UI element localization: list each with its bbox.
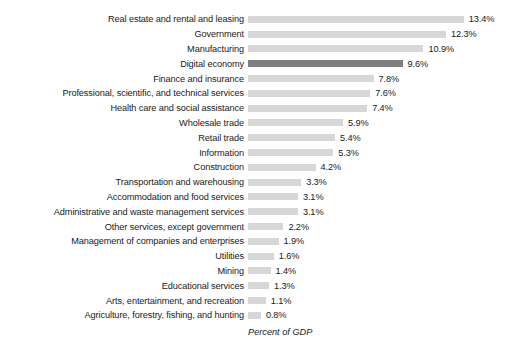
value-label: 5.4% bbox=[335, 133, 361, 143]
bar-area: 9.6% bbox=[248, 56, 517, 71]
value-label: 5.3% bbox=[333, 148, 359, 158]
bar bbox=[248, 134, 335, 141]
chart-row: Information5.3% bbox=[0, 145, 517, 160]
value-label: 12.3% bbox=[446, 29, 477, 39]
category-label: Mining bbox=[0, 266, 248, 276]
bar bbox=[248, 149, 333, 156]
chart-row: Other services, except government2.2% bbox=[0, 219, 517, 234]
category-label: Utilities bbox=[0, 251, 248, 261]
category-label: Finance and insurance bbox=[0, 74, 248, 84]
category-label: Government bbox=[0, 29, 248, 39]
value-label: 7.6% bbox=[370, 88, 396, 98]
value-label: 10.9% bbox=[423, 44, 454, 54]
bar-area: 3.1% bbox=[248, 204, 517, 219]
bar-area: 3.3% bbox=[248, 175, 517, 190]
bar bbox=[248, 312, 261, 319]
bar bbox=[248, 105, 367, 112]
bar bbox=[248, 238, 279, 245]
chart-row: Construction4.2% bbox=[0, 160, 517, 175]
bar-area: 5.4% bbox=[248, 130, 517, 145]
bar bbox=[248, 223, 283, 230]
chart-row: Accommodation and food services3.1% bbox=[0, 190, 517, 205]
bar bbox=[248, 297, 266, 304]
bar-area: 2.2% bbox=[248, 219, 517, 234]
category-label: Educational services bbox=[0, 281, 248, 291]
chart-row: Health care and social assistance7.4% bbox=[0, 101, 517, 116]
bar bbox=[248, 208, 298, 215]
value-label: 7.4% bbox=[367, 103, 393, 113]
bar bbox=[248, 119, 343, 126]
chart-row: Finance and insurance7.8% bbox=[0, 71, 517, 86]
category-label: Accommodation and food services bbox=[0, 192, 248, 202]
bar bbox=[248, 75, 374, 82]
value-label: 1.3% bbox=[269, 281, 295, 291]
category-label: Real estate and rental and leasing bbox=[0, 14, 248, 24]
chart-row: Arts, entertainment, and recreation1.1% bbox=[0, 293, 517, 308]
bar bbox=[248, 16, 464, 23]
bar-area: 7.6% bbox=[248, 86, 517, 101]
chart-row: Manufacturing10.9% bbox=[0, 42, 517, 57]
bar bbox=[248, 90, 370, 97]
chart-row: Government12.3% bbox=[0, 27, 517, 42]
value-label: 3.1% bbox=[298, 192, 324, 202]
category-label: Manufacturing bbox=[0, 44, 248, 54]
x-axis-label: Percent of GDP bbox=[248, 327, 312, 337]
value-label: 1.4% bbox=[271, 266, 297, 276]
bar bbox=[248, 267, 271, 274]
category-label: Management of companies and enterprises bbox=[0, 236, 248, 246]
chart-row: Retail trade5.4% bbox=[0, 130, 517, 145]
chart-row: Agriculture, forestry, fishing, and hunt… bbox=[0, 308, 517, 323]
bar-area: 0.8% bbox=[248, 308, 517, 323]
category-label: Administrative and waste management serv… bbox=[0, 207, 248, 217]
bar-area: 1.3% bbox=[248, 278, 517, 293]
category-label: Digital economy bbox=[0, 59, 248, 69]
chart-row: Real estate and rental and leasing13.4% bbox=[0, 12, 517, 27]
chart-row: Administrative and waste management serv… bbox=[0, 204, 517, 219]
bar-area: 7.8% bbox=[248, 71, 517, 86]
category-label: Transportation and warehousing bbox=[0, 177, 248, 187]
bar-area: 13.4% bbox=[248, 12, 517, 27]
category-label: Agriculture, forestry, fishing, and hunt… bbox=[0, 310, 248, 320]
category-label: Other services, except government bbox=[0, 222, 248, 232]
value-label: 1.9% bbox=[279, 236, 305, 246]
bar bbox=[248, 253, 274, 260]
chart-row: Transportation and warehousing3.3% bbox=[0, 175, 517, 190]
chart-row: Management of companies and enterprises1… bbox=[0, 234, 517, 249]
value-label: 1.1% bbox=[266, 296, 292, 306]
category-label: Information bbox=[0, 148, 248, 158]
bar-area: 1.1% bbox=[248, 293, 517, 308]
bar bbox=[248, 45, 423, 52]
bar-chart: Real estate and rental and leasing13.4%G… bbox=[0, 0, 517, 359]
category-label: Construction bbox=[0, 162, 248, 172]
bar-area: 1.4% bbox=[248, 264, 517, 279]
bar-area: 12.3% bbox=[248, 27, 517, 42]
bar-area: 10.9% bbox=[248, 42, 517, 57]
axis-caption-row: Percent of GDP bbox=[0, 327, 517, 337]
value-label: 5.9% bbox=[343, 118, 369, 128]
bar bbox=[248, 193, 298, 200]
value-label: 7.8% bbox=[374, 74, 400, 84]
bar bbox=[248, 31, 446, 38]
value-label: 0.8% bbox=[261, 310, 287, 320]
category-label: Wholesale trade bbox=[0, 118, 248, 128]
value-label: 3.3% bbox=[301, 177, 327, 187]
category-label: Retail trade bbox=[0, 133, 248, 143]
bar bbox=[248, 282, 269, 289]
category-label: Health care and social assistance bbox=[0, 103, 248, 113]
category-label: Arts, entertainment, and recreation bbox=[0, 296, 248, 306]
value-label: 3.1% bbox=[298, 207, 324, 217]
bar-area: 1.6% bbox=[248, 249, 517, 264]
bar-area: 7.4% bbox=[248, 101, 517, 116]
value-label: 1.6% bbox=[274, 251, 300, 261]
value-label: 9.6% bbox=[403, 59, 429, 69]
value-label: 13.4% bbox=[464, 14, 495, 24]
bar-area: 5.3% bbox=[248, 145, 517, 160]
chart-rows: Real estate and rental and leasing13.4%G… bbox=[0, 12, 517, 323]
bar-area: 3.1% bbox=[248, 190, 517, 205]
bar-highlight bbox=[248, 60, 403, 67]
bar-area: 1.9% bbox=[248, 234, 517, 249]
bar bbox=[248, 164, 316, 171]
value-label: 4.2% bbox=[316, 162, 342, 172]
chart-row: Mining1.4% bbox=[0, 264, 517, 279]
axis-caption-spacer bbox=[0, 327, 248, 337]
